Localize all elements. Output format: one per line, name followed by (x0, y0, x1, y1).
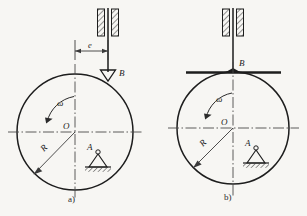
label-omega-a: ω (57, 98, 63, 108)
label-support-a-a: A (86, 142, 93, 152)
label-support-a-b: A (244, 138, 251, 148)
guide-block-right-b (237, 9, 244, 36)
label-omega-b: ω (216, 94, 222, 104)
label-contact-point-b-b: B (239, 58, 245, 68)
guide-block-right-a (112, 9, 119, 36)
panel-caption-a: a) (68, 194, 75, 204)
label-contact-point-b-a: B (119, 68, 125, 78)
panel-caption-b: b) (224, 192, 232, 202)
guide-block-left-b (223, 9, 230, 36)
cam-mechanism-figure: B e O R ω (0, 0, 307, 216)
label-eccentricity-e-a: e (88, 40, 92, 50)
label-center-o-b: O (221, 117, 228, 127)
figure-background (0, 0, 307, 216)
label-center-o-a: O (63, 121, 70, 131)
guide-block-left-a (98, 9, 105, 36)
